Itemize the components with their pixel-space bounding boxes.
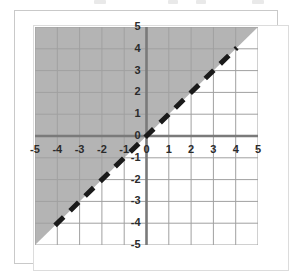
y-axis-tick-label: -2 [121,174,141,185]
x-axis-tick-label: 2 [181,144,201,155]
x-axis-tick-label: -2 [92,144,112,155]
y-axis-tick-label: 4 [121,43,141,54]
x-axis-tick-label: 4 [226,144,246,155]
y-axis-tick-label: 5 [121,21,141,32]
coordinate-plane [35,27,258,245]
x-axis-tick-label: 3 [203,144,223,155]
x-axis-tick-label: -5 [25,144,45,155]
x-axis-tick-label: -3 [70,144,90,155]
y-axis-tick-label: -3 [121,195,141,206]
y-axis-tick-label: 3 [121,65,141,76]
y-axis-tick-label: 0 [121,130,141,141]
x-axis-tick-label: -4 [47,144,67,155]
x-axis-tick-label: 1 [159,144,179,155]
scan-artifacts-strip [0,0,292,6]
y-axis-tick-label: 1 [121,108,141,119]
x-axis-tick-label: 5 [248,144,268,155]
y-axis-tick-label: -1 [121,152,141,163]
y-axis-tick-label: -4 [121,217,141,228]
y-axis-tick-label: -5 [121,239,141,250]
y-axis-tick-label: 2 [121,86,141,97]
graph-svg [35,27,258,245]
